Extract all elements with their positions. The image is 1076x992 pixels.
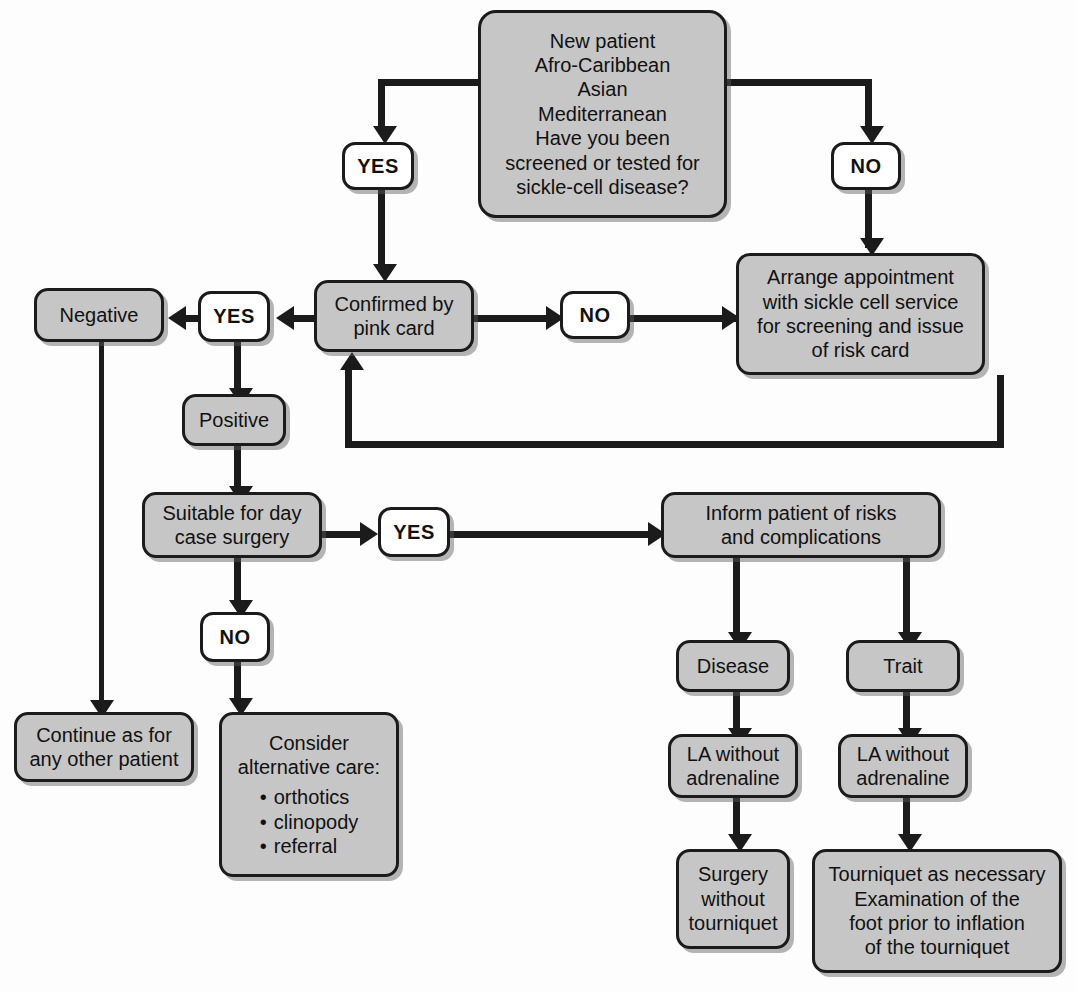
node-no-suitable[interactable]: NO bbox=[200, 612, 270, 662]
connector-new-patient-right-stub bbox=[724, 79, 872, 86]
node-disease[interactable]: Disease bbox=[676, 640, 790, 692]
connector-yes-top-to-confirmed bbox=[378, 190, 385, 272]
node-yes-suitable-label: YES bbox=[393, 520, 435, 544]
node-no-screened[interactable]: NO bbox=[831, 142, 901, 190]
node-yes-confirmed[interactable]: YES bbox=[198, 291, 270, 342]
node-confirmed-pink-card[interactable]: Confirmed by pink card bbox=[314, 280, 474, 352]
arrowhead-suitable-to-yes bbox=[360, 522, 378, 546]
node-yes-suitable[interactable]: YES bbox=[378, 507, 450, 557]
node-disease-label: Disease bbox=[697, 654, 769, 678]
connector-arrange-loop-up bbox=[345, 370, 352, 445]
node-consider-alternative-care[interactable]: Consider alternative care: orthotics cli… bbox=[219, 712, 399, 877]
node-inform-patient-text: Inform patient of risks and complication… bbox=[672, 501, 930, 550]
node-la-trait-text: LA without adrenaline bbox=[849, 742, 957, 791]
node-new-patient[interactable]: New patient Afro-Caribbean Asian Mediter… bbox=[478, 10, 727, 218]
node-positive-label: Positive bbox=[199, 408, 269, 432]
node-continue-text: Continue as for any other patient bbox=[25, 723, 183, 772]
node-arrange-appointment-text: Arrange appointment with sickle cell ser… bbox=[747, 265, 974, 363]
node-la-disease-text: LA without adrenaline bbox=[679, 742, 787, 791]
node-continue-as-for-any-other-patient[interactable]: Continue as for any other patient bbox=[14, 712, 194, 782]
node-negative-label: Negative bbox=[60, 303, 139, 327]
node-no-confirmed[interactable]: NO bbox=[560, 291, 630, 339]
node-la-without-adrenaline-trait[interactable]: LA without adrenaline bbox=[838, 734, 968, 798]
connector-arrange-loop-across bbox=[345, 441, 1004, 448]
node-surgery-without-tourniquet[interactable]: Surgery without tourniquet bbox=[676, 849, 790, 949]
connector-inform-to-disease bbox=[733, 558, 740, 640]
node-no-screened-label: NO bbox=[851, 154, 882, 178]
arrowhead-yes-to-negative bbox=[168, 306, 186, 330]
node-suitable-day-case-text: Suitable for day case surgery bbox=[153, 501, 311, 550]
node-yes-screened[interactable]: YES bbox=[342, 142, 414, 190]
connector-yes-to-inform bbox=[446, 531, 656, 538]
bullet-referral: referral bbox=[260, 834, 359, 858]
node-consider-alternative-care-text: Consider alternative care: orthotics cli… bbox=[230, 731, 388, 859]
arrowhead-confirmed-to-yes bbox=[276, 306, 294, 330]
connector-to-yes-top bbox=[378, 79, 385, 131]
alternative-care-bullet-list: orthotics clinopody referral bbox=[260, 785, 359, 858]
node-negative[interactable]: Negative bbox=[34, 288, 164, 342]
node-trait[interactable]: Trait bbox=[846, 640, 960, 692]
arrowhead-loop-to-confirmed bbox=[340, 352, 364, 370]
node-yes-confirmed-label: YES bbox=[213, 304, 255, 328]
connector-inform-to-trait bbox=[903, 558, 910, 640]
node-trait-label: Trait bbox=[883, 654, 922, 678]
node-surgery-without-tourniquet-text: Surgery without tourniquet bbox=[687, 862, 779, 935]
node-no-suitable-label: NO bbox=[220, 625, 251, 649]
node-no-confirmed-label: NO bbox=[580, 303, 611, 327]
connector-yes-to-positive bbox=[234, 342, 241, 394]
bullet-orthotics: orthotics bbox=[260, 785, 359, 809]
node-tourniquet-as-necessary-text: Tourniquet as necessary Examination of t… bbox=[823, 862, 1051, 960]
bullet-clinopody: clinopody bbox=[260, 810, 359, 834]
node-confirmed-pink-card-text: Confirmed by pink card bbox=[325, 292, 463, 341]
node-la-without-adrenaline-disease[interactable]: LA without adrenaline bbox=[668, 734, 798, 798]
connector-new-patient-left-stub bbox=[378, 79, 482, 86]
connector-confirmed-to-no bbox=[474, 315, 552, 322]
node-yes-screened-label: YES bbox=[357, 154, 399, 178]
node-new-patient-text: New patient Afro-Caribbean Asian Mediter… bbox=[489, 29, 716, 200]
node-positive[interactable]: Positive bbox=[182, 394, 286, 446]
node-arrange-appointment[interactable]: Arrange appointment with sickle cell ser… bbox=[736, 253, 985, 375]
connector-to-no-top bbox=[865, 79, 872, 131]
connector-arrange-loop-down bbox=[997, 375, 1004, 448]
connector-suitable-to-no bbox=[234, 558, 241, 606]
connector-negative-to-continue bbox=[99, 342, 104, 708]
node-tourniquet-as-necessary[interactable]: Tourniquet as necessary Examination of t… bbox=[812, 849, 1062, 973]
node-inform-patient[interactable]: Inform patient of risks and complication… bbox=[661, 492, 941, 558]
node-suitable-day-case[interactable]: Suitable for day case surgery bbox=[142, 492, 322, 558]
flowchart-canvas: New patient Afro-Caribbean Asian Mediter… bbox=[0, 0, 1076, 992]
